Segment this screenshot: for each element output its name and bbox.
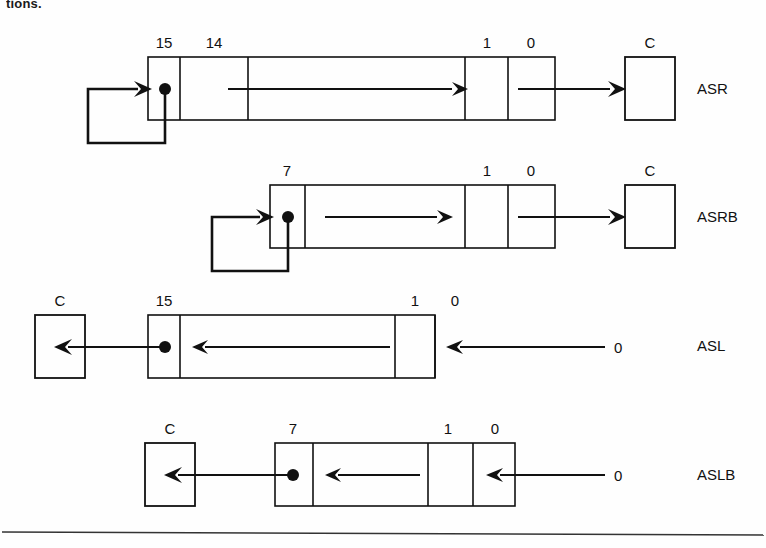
row-asr: 15 14 1 0 C ASR bbox=[88, 34, 728, 143]
shift-register-diagram: 15 14 1 0 C ASR 7 1 0 bbox=[0, 0, 766, 548]
asrb-to-carry-arrowhead bbox=[608, 209, 626, 225]
asl-bit-label-1: 1 bbox=[411, 292, 419, 309]
aslb-bit-label-0: 0 bbox=[491, 420, 499, 437]
aslb-bit-label-1: 1 bbox=[444, 420, 452, 437]
asr-carry-label: C bbox=[645, 34, 656, 51]
asr-to-carry-arrowhead bbox=[608, 81, 626, 97]
asr-bit-label-14: 14 bbox=[206, 34, 223, 51]
aslb-bit-label-7: 7 bbox=[289, 420, 297, 437]
asrb-internal-arrowhead bbox=[437, 210, 453, 224]
asrb-feedback-loop-path bbox=[212, 217, 288, 271]
asrb-carry-box bbox=[625, 185, 675, 248]
asr-bit-label-0: 0 bbox=[527, 34, 535, 51]
asl-bit-label-15: 15 bbox=[156, 292, 173, 309]
asr-operation-label: ASR bbox=[697, 80, 728, 97]
asl-carry-label: C bbox=[55, 292, 66, 309]
aslb-carry-label: C bbox=[165, 420, 176, 437]
asr-carry-box bbox=[625, 57, 675, 120]
asrb-sign-bit-dot bbox=[282, 211, 294, 223]
aslb-zero-input-label: 0 bbox=[614, 467, 622, 484]
asl-bit-label-0: 0 bbox=[451, 292, 459, 309]
asr-bit-label-15: 15 bbox=[156, 34, 173, 51]
asr-feedback-loop-path bbox=[88, 89, 165, 143]
asrb-bit-label-0: 0 bbox=[527, 162, 535, 179]
asrb-bit-label-7: 7 bbox=[283, 162, 291, 179]
asl-zero-input-label: 0 bbox=[614, 339, 622, 356]
diagram-page: tions. 15 14 1 0 C ASR bbox=[0, 0, 766, 548]
row-aslb: C 7 1 0 0 ASLB bbox=[145, 420, 735, 506]
asr-sign-bit-dot bbox=[159, 83, 171, 95]
asrb-bit-label-1: 1 bbox=[483, 162, 491, 179]
row-asrb: 7 1 0 C ASRB bbox=[212, 162, 738, 271]
asl-operation-label: ASL bbox=[697, 337, 725, 354]
footer-separator-rule bbox=[2, 532, 764, 535]
row-asl: C 15 1 0 0 ASL bbox=[35, 292, 725, 378]
asrb-carry-label: C bbox=[645, 162, 656, 179]
asr-bit-label-1: 1 bbox=[483, 34, 491, 51]
asrb-operation-label: ASRB bbox=[697, 208, 738, 225]
aslb-operation-label: ASLB bbox=[697, 466, 735, 483]
